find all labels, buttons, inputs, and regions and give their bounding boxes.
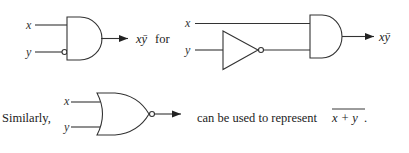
- output-label: xȳ: [378, 30, 391, 44]
- nor-expression: x + y: [331, 111, 358, 125]
- output-label: xȳ: [135, 32, 148, 46]
- connector-text: for: [155, 32, 170, 46]
- and-gate-inverted-input-diagram: x y xȳ for: [25, 17, 170, 60]
- inversion-bubble-icon: [259, 48, 264, 53]
- description-text: can be used to represent: [197, 111, 318, 125]
- logic-gate-figure: x y xȳ for x y xȳ Similarly, x y can be …: [0, 0, 409, 153]
- inversion-bubble-icon: [62, 50, 67, 55]
- lead-text: Similarly,: [2, 111, 51, 125]
- nor-gate-icon: [97, 93, 149, 135]
- input-label-x: x: [63, 94, 70, 108]
- and-gate-icon: [310, 15, 342, 58]
- expression-period: .: [364, 111, 367, 125]
- input-label-y: y: [184, 43, 191, 57]
- input-label-x: x: [25, 18, 32, 32]
- input-label-y: y: [63, 120, 70, 134]
- inverter-icon: [223, 31, 258, 70]
- inversion-bubble-icon: [150, 112, 155, 117]
- input-label-x: x: [184, 16, 191, 30]
- nor-gate-diagram: Similarly, x y can be used to represent …: [2, 93, 367, 135]
- and-gate-icon: [67, 17, 102, 60]
- inverter-and-gate-diagram: x y xȳ: [184, 15, 391, 70]
- input-label-y: y: [25, 45, 32, 59]
